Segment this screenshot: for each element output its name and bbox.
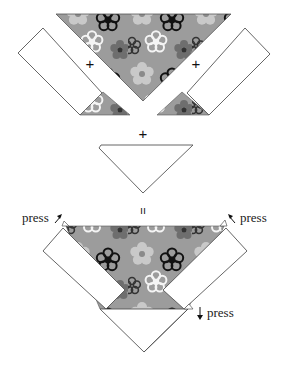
equals-sign: = [137,207,149,214]
arrow-down-icon [197,307,203,320]
white-triangle-bottom [100,309,188,352]
arrow-up-right-icon [55,214,62,223]
press-label-top-left: press [22,211,49,224]
dog-ear-top-right [220,220,227,226]
plus-sign-right: + [192,56,201,71]
press-label-bottom: press [207,306,234,319]
dog-ear-top-left [62,221,69,226]
quilt-assembly-diagram [0,0,283,369]
white-triangle-middle [99,145,193,193]
plus-sign-middle: + [139,126,148,141]
plus-sign-left: + [86,56,95,71]
arrow-up-left-icon [228,214,235,223]
press-label-top-right: press [240,211,267,224]
